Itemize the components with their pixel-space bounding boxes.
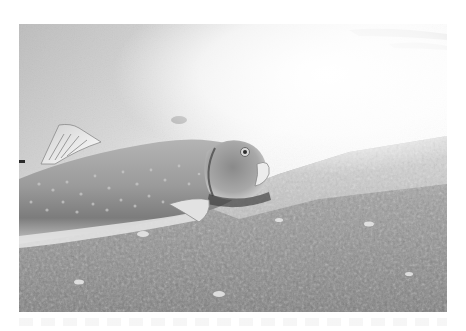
page (0, 0, 466, 331)
fish-photograph (19, 24, 447, 312)
tail-mark (19, 160, 25, 163)
fish-pupil (243, 150, 247, 154)
photo-canvas (19, 24, 447, 312)
ghost-caption-artifact (19, 318, 447, 326)
